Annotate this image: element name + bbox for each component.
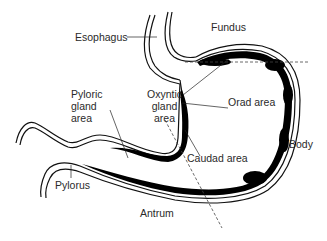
esophagus-walls (144, 12, 196, 84)
muscle-bumps (199, 58, 293, 185)
label-pylorus: Pylorus (55, 179, 90, 191)
label-pyloric-gland-area: Pyloric gland area (71, 88, 103, 124)
label-caudad-area: Caudad area (187, 152, 248, 164)
label-orad-area: Orad area (228, 96, 275, 108)
label-antrum: Antrum (140, 207, 174, 219)
label-body: Body (289, 138, 313, 150)
stomach-diagram: Esophagus Fundus Pyloric gland area Oxyn… (0, 0, 327, 241)
label-fundus: Fundus (211, 21, 246, 33)
label-esophagus: Esophagus (75, 31, 128, 43)
label-oxyntic-gland-area: Oxyntic gland area (147, 88, 182, 124)
